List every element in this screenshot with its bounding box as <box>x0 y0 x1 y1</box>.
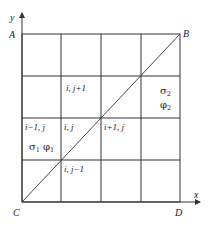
region1-properties: σ1φ1 <box>29 141 54 154</box>
x-axis-label: x <box>193 189 199 200</box>
y-axis-label: y <box>9 12 15 23</box>
cell-label-iplus1-j: i+1, j <box>104 122 125 132</box>
cell-label-i-jminus1: i, j−1 <box>64 164 84 174</box>
region2-properties: σ2 φ2 <box>160 85 171 112</box>
svg-text:σ2: σ2 <box>160 85 171 98</box>
grid-diagram: y x A B C D i, j+1 i−1, j i, j i+1, j i,… <box>0 0 210 228</box>
svg-text:σ1φ1: σ1φ1 <box>29 141 54 154</box>
corner-c-label: C <box>13 207 20 218</box>
corner-d-label: D <box>174 207 183 218</box>
svg-text:φ2: φ2 <box>160 99 171 112</box>
corner-b-label: B <box>183 28 189 39</box>
corner-a-label: A <box>8 29 16 40</box>
cell-label-i-j: i, j <box>64 122 74 132</box>
cell-label-iminus1-j: i−1, j <box>25 122 46 132</box>
cell-label-i-jplus1: i, j+1 <box>66 83 86 93</box>
